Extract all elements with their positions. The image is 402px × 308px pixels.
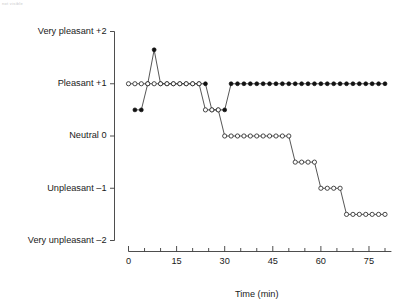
x-axis-tick-label: 60 xyxy=(316,256,326,266)
data-point-filled-circle xyxy=(338,82,342,86)
data-point-open-circle xyxy=(133,82,137,86)
data-point-filled-circle xyxy=(293,82,297,86)
data-point-filled-circle xyxy=(255,82,259,86)
chart-canvas: Very pleasant +2Pleasant +1Neutral 0Unpl… xyxy=(0,0,402,308)
data-point-filled-circle xyxy=(139,108,143,112)
data-point-open-circle xyxy=(376,212,380,216)
x-axis-tick-label: 30 xyxy=(220,256,230,266)
x-axis-tick-label: 75 xyxy=(364,256,374,266)
series-line xyxy=(129,84,386,215)
data-point-open-circle xyxy=(261,134,265,138)
series-filled-circle-series xyxy=(133,48,387,112)
data-point-open-circle xyxy=(364,212,368,216)
data-point-open-circle xyxy=(235,134,239,138)
data-point-open-circle xyxy=(210,108,214,112)
data-point-open-circle xyxy=(300,160,304,164)
data-point-filled-circle xyxy=(313,82,317,86)
data-point-filled-circle xyxy=(248,82,252,86)
data-point-open-circle xyxy=(344,212,348,216)
data-point-filled-circle xyxy=(364,82,368,86)
y-axis-tick-label: Very unpleasant –2 xyxy=(28,235,107,245)
data-point-filled-circle xyxy=(370,82,374,86)
x-axis-title: Time (min) xyxy=(235,289,279,299)
data-point-filled-circle xyxy=(287,82,291,86)
data-point-open-circle xyxy=(370,212,374,216)
data-point-open-circle xyxy=(351,212,355,216)
data-point-open-circle xyxy=(139,82,143,86)
scan-artifact-text: not visible xyxy=(2,1,23,6)
pleasantness-over-time-chart: not visible Very pleasant +2Pleasant +1N… xyxy=(0,0,402,308)
data-point-filled-circle xyxy=(377,82,381,86)
y-axis-tick-label: Pleasant +1 xyxy=(58,78,107,88)
y-axis-tick-label: Very pleasant +2 xyxy=(38,26,107,36)
data-point-open-circle xyxy=(267,134,271,138)
data-point-open-circle xyxy=(191,82,195,86)
data-point-filled-circle xyxy=(306,82,310,86)
data-point-open-circle xyxy=(274,134,278,138)
data-point-open-circle xyxy=(126,82,130,86)
data-point-open-circle xyxy=(197,82,201,86)
data-point-filled-circle xyxy=(345,82,349,86)
data-point-open-circle xyxy=(357,212,361,216)
data-point-open-circle xyxy=(184,82,188,86)
data-point-filled-circle xyxy=(274,82,278,86)
data-point-open-circle xyxy=(216,108,220,112)
data-point-open-circle xyxy=(229,134,233,138)
data-point-open-circle xyxy=(312,160,316,164)
data-point-open-circle xyxy=(242,134,246,138)
data-point-filled-circle xyxy=(383,82,387,86)
data-point-open-circle xyxy=(171,82,175,86)
data-point-open-circle xyxy=(332,186,336,190)
data-point-filled-circle xyxy=(242,82,246,86)
data-point-filled-circle xyxy=(325,82,329,86)
data-point-filled-circle xyxy=(152,48,156,52)
data-series-group xyxy=(126,48,387,217)
x-axis-tick-label: 0 xyxy=(126,256,131,266)
data-point-open-circle xyxy=(293,160,297,164)
series-open-circle-series xyxy=(126,82,387,217)
x-axis-tick-label: 15 xyxy=(171,256,181,266)
x-axis: 01530456075 xyxy=(126,246,391,266)
data-point-open-circle xyxy=(248,134,252,138)
data-point-open-circle xyxy=(203,108,207,112)
data-point-open-circle xyxy=(158,82,162,86)
data-point-open-circle xyxy=(338,186,342,190)
data-point-filled-circle xyxy=(357,82,361,86)
y-axis-tick-label: Unpleasant –1 xyxy=(47,183,106,193)
data-point-open-circle xyxy=(306,160,310,164)
series-line xyxy=(135,50,385,110)
data-point-filled-circle xyxy=(280,82,284,86)
y-axis: Very pleasant +2Pleasant +1Neutral 0Unpl… xyxy=(28,26,115,245)
data-point-open-circle xyxy=(255,134,259,138)
data-point-open-circle xyxy=(178,82,182,86)
y-axis-tick-label: Neutral 0 xyxy=(69,130,106,140)
data-point-filled-circle xyxy=(351,82,355,86)
data-point-open-circle xyxy=(280,134,284,138)
data-point-filled-circle xyxy=(319,82,323,86)
data-point-filled-circle xyxy=(133,108,137,112)
data-point-open-circle xyxy=(165,82,169,86)
data-point-open-circle xyxy=(223,134,227,138)
data-point-filled-circle xyxy=(332,82,336,86)
data-point-open-circle xyxy=(383,212,387,216)
data-point-filled-circle xyxy=(300,82,304,86)
data-point-filled-circle xyxy=(204,82,208,86)
data-point-filled-circle xyxy=(229,82,233,86)
data-point-open-circle xyxy=(319,186,323,190)
data-point-open-circle xyxy=(146,82,150,86)
data-point-open-circle xyxy=(287,134,291,138)
data-point-filled-circle xyxy=(268,82,272,86)
data-point-filled-circle xyxy=(261,82,265,86)
data-point-open-circle xyxy=(325,186,329,190)
data-point-open-circle xyxy=(152,82,156,86)
data-point-filled-circle xyxy=(236,82,240,86)
x-axis-tick-label: 45 xyxy=(268,256,278,266)
data-point-filled-circle xyxy=(223,108,227,112)
